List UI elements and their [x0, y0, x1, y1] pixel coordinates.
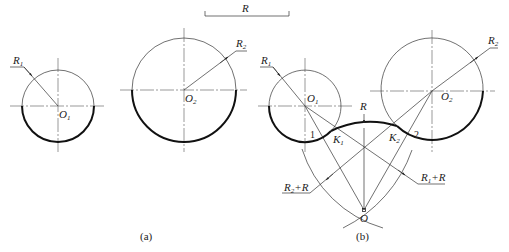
- radius-leader-r1: [260, 67, 305, 106]
- circle-thick-arc: [397, 91, 483, 140]
- radius-leader-r2: [432, 48, 498, 91]
- arc-center-label-o: O: [360, 212, 368, 224]
- point-number-2: 2: [414, 129, 419, 140]
- caption-b: (b): [356, 230, 369, 243]
- radius-arrow: [273, 67, 280, 76]
- arrow-r2-plus-r: [326, 174, 333, 180]
- reference-label: R: [241, 2, 249, 14]
- radius-leader-r1: [10, 67, 58, 106]
- figure-a-circle-1: R1 O1: [10, 54, 105, 152]
- radius-label-r1: R1: [260, 54, 271, 68]
- radius-label-r2: R2: [487, 34, 499, 48]
- figure-a-circle-2: R2 O2: [120, 28, 247, 152]
- arrow-r1-plus-r: [398, 170, 405, 175]
- label-r1-plus-r: R1+R: [420, 171, 446, 185]
- center-label-o2: O2: [441, 90, 453, 104]
- circle-thick-arc: [269, 106, 331, 142]
- radius-label-r1: R1: [12, 54, 23, 68]
- radius-label-r2: R2: [235, 37, 247, 51]
- label-r2-plus-r: R2+R: [283, 181, 309, 195]
- tangent-point-k1: K1: [332, 133, 344, 147]
- line-o-to-o1: [305, 106, 364, 210]
- caption-a: (a): [140, 230, 153, 243]
- reference-length-r: R: [205, 2, 289, 16]
- tangent-point-k2: K2: [388, 131, 400, 145]
- point-number-1: 1: [310, 129, 315, 140]
- figure-a: R1 O1 R2 O2 (a): [10, 28, 247, 243]
- arc-tangent-construction-diagram: R R1 O1 R2 O2 (a): [0, 0, 509, 252]
- construction-arc-r2-plus-r: [343, 150, 412, 228]
- figure-b: R1 O1 R2 O2 R K1 K2 1 2 R2+R R1+R O (b): [258, 30, 499, 243]
- line-o-to-o2: [364, 91, 432, 210]
- center-label-o1: O1: [307, 92, 318, 106]
- radius-arrow: [470, 57, 478, 63]
- center-label-o2: O2: [185, 92, 197, 106]
- arc-r-label: R: [359, 100, 367, 112]
- radius-arrow: [24, 67, 32, 76]
- radius-leader-r2: [184, 51, 247, 90]
- center-label-o1: O1: [59, 108, 70, 122]
- construction-arc-r1-plus-r: [302, 149, 383, 228]
